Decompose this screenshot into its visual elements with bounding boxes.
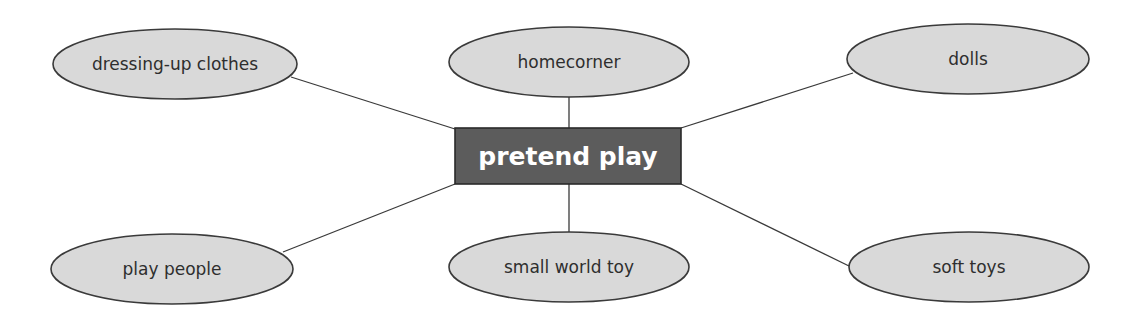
node-dressing-up-clothes: dressing-up clothes bbox=[53, 29, 297, 99]
node-small-world-toy: small world toy bbox=[449, 232, 689, 302]
node-label: homecorner bbox=[518, 52, 621, 72]
node-soft-toys: soft toys bbox=[849, 232, 1089, 302]
connector-play-people bbox=[283, 184, 455, 252]
node-dolls: dolls bbox=[847, 24, 1089, 94]
center-node: pretend play bbox=[455, 128, 681, 184]
connector-dolls bbox=[681, 73, 853, 128]
node-label: dolls bbox=[948, 49, 988, 69]
node-label: dressing-up clothes bbox=[92, 54, 258, 74]
node-label: play people bbox=[122, 259, 221, 279]
node-label: soft toys bbox=[933, 257, 1006, 277]
mind-map-diagram: dressing-up clothes homecorner dolls pla… bbox=[0, 0, 1137, 315]
node-homecorner: homecorner bbox=[449, 27, 689, 97]
node-play-people: play people bbox=[51, 234, 293, 304]
connector-dressing-up-clothes bbox=[291, 77, 455, 129]
connector-soft-toys bbox=[681, 184, 849, 266]
center-label: pretend play bbox=[478, 142, 657, 171]
node-label: small world toy bbox=[504, 257, 634, 277]
